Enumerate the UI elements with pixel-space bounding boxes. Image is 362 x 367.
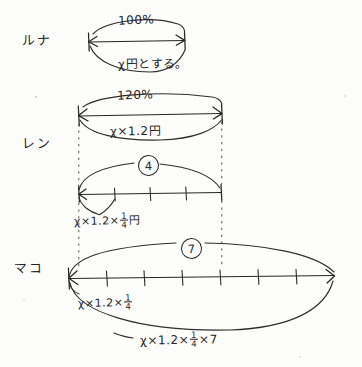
percent-label-100: 100% [118,13,155,26]
formula-ren-unit-prefix: χ×1.2× [74,214,120,228]
formula-mako-total-suffix: ×7 [199,332,218,346]
formula-mako-total: χ×1.2×14×7 [140,330,218,350]
formula-mako-total-prefix: χ×1.2× [140,333,189,348]
formula-ren-unit-segment: χ×1.2×14円 [74,211,141,232]
row-label-mako: マコ [14,262,43,276]
fraction-one-quarter-mako: 14 [124,293,132,312]
diagram-ink-layer: .stroke { fill:none; stroke:#262626; str… [0,0,362,367]
handwritten-diagram-sheet: .stroke { fill:none; stroke:#262626; str… [0,0,362,367]
row-label-luna: ルナ [22,34,51,48]
formula-luna-x-yen: χ円とする。 [118,57,188,70]
row-label-ren: レン [22,137,51,151]
percent-label-120: 120% [117,88,154,101]
formula-ren-x-times-1-2-yen: χ×1.2円 [110,125,161,138]
row-mako-seven-segment-line [68,243,334,338]
fraction-one-quarter-total: 14 [190,330,198,349]
formula-ren-unit-suffix: 円 [129,214,141,227]
formula-mako-unit-prefix: χ×1.2× [78,296,124,310]
formula-mako-unit-segment: χ×1.2×14 [78,293,134,313]
fraction-one-quarter-ren: 14 [120,211,128,230]
